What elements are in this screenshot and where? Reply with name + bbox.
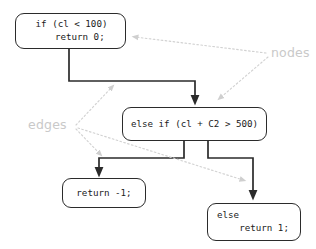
annotation-edges-label: edges — [28, 117, 67, 132]
node-else-if[interactable]: else if (cl + C2 > 500) — [122, 107, 267, 141]
edge-elseif-to-else — [208, 141, 253, 195]
annotation-edges-leader-1 — [76, 87, 112, 125]
edge-elseif-to-return-neg1 — [99, 141, 184, 172]
node-return-neg1[interactable]: return -1; — [62, 178, 146, 208]
annotation-edges-leader-2 — [76, 129, 100, 154]
diagram-canvas: if (cl < 100) return 0; else if (cl + C2… — [0, 0, 316, 249]
node-if[interactable]: if (cl < 100) return 0; — [15, 13, 126, 49]
node-else-if-line-1: else if (cl + C2 > 500) — [131, 118, 258, 131]
node-if-line-1: if (cl < 100) — [36, 18, 108, 31]
node-else-line-2: return 1; — [217, 222, 300, 235]
annotation-nodes-leader-1 — [135, 37, 266, 53]
annotation-nodes-label: nodes — [271, 45, 310, 60]
node-return-neg1-line-1: return -1; — [76, 187, 131, 200]
node-if-line-2: return 0; — [38, 31, 104, 44]
annotation-nodes-leader-2 — [220, 57, 268, 98]
edge-if-to-elseif — [69, 49, 195, 100]
node-else-line-1: else — [217, 209, 300, 222]
node-else[interactable]: else return 1; — [207, 203, 301, 241]
